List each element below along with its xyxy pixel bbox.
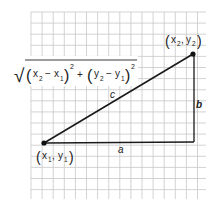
svg-text:(: ( bbox=[165, 33, 170, 49]
svg-text:(: ( bbox=[36, 149, 41, 165]
svg-text:2: 2 bbox=[131, 63, 135, 70]
svg-text:): ) bbox=[69, 149, 74, 165]
side-label-c: c bbox=[110, 89, 115, 100]
svg-text:): ) bbox=[197, 33, 202, 49]
svg-text:x: x bbox=[54, 68, 59, 79]
point-1-label: ( x 1 , y 1 ) bbox=[36, 149, 74, 165]
distance-formula-diagram: c a b ( x 2 , y 2 ) ( x 1 , y 1 ) √ ( x … bbox=[0, 0, 217, 207]
side-label-a: a bbox=[118, 144, 124, 155]
leg-a bbox=[44, 142, 194, 143]
svg-text:−: − bbox=[106, 68, 112, 79]
svg-text:2: 2 bbox=[100, 75, 104, 82]
svg-text:2: 2 bbox=[39, 75, 43, 82]
svg-text:x: x bbox=[42, 150, 47, 161]
point-1-dot bbox=[41, 140, 46, 145]
side-label-b: b bbox=[196, 99, 202, 110]
svg-text:y: y bbox=[58, 150, 63, 161]
radical-sign: √ bbox=[14, 65, 25, 86]
svg-text:y: y bbox=[94, 68, 99, 79]
svg-text:x: x bbox=[33, 68, 38, 79]
svg-text:1: 1 bbox=[64, 156, 68, 163]
distance-formula: √ ( x 2 − x 1 ) 2 + ( y 2 − y 1 ) 2 bbox=[14, 56, 138, 86]
svg-text:,: , bbox=[181, 34, 184, 45]
svg-text:y: y bbox=[186, 34, 191, 45]
svg-text:+: + bbox=[77, 69, 83, 80]
svg-text:−: − bbox=[45, 68, 51, 79]
svg-text:2: 2 bbox=[70, 63, 74, 70]
svg-text:2: 2 bbox=[192, 40, 196, 47]
svg-text:y: y bbox=[115, 68, 120, 79]
point-2-dot bbox=[190, 51, 195, 56]
svg-text:,: , bbox=[52, 150, 55, 161]
svg-text:(: ( bbox=[87, 67, 93, 84]
svg-text:): ) bbox=[125, 67, 130, 84]
svg-text:(: ( bbox=[26, 67, 32, 84]
svg-text:x: x bbox=[171, 34, 176, 45]
point-2-label: ( x 2 , y 2 ) bbox=[165, 33, 202, 49]
svg-text:): ) bbox=[64, 67, 69, 84]
